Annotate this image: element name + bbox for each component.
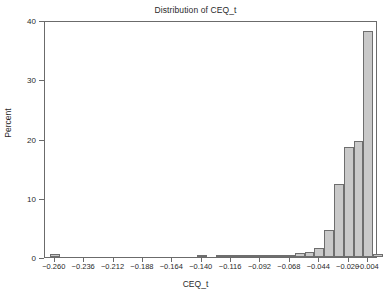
bars-container <box>45 22 376 257</box>
chart-title: Distribution of CEQ_t <box>0 5 391 15</box>
x-tick-label: −0.212 <box>101 262 124 271</box>
histogram-bar <box>275 255 285 257</box>
x-tick-label: −0.092 <box>248 262 271 271</box>
x-tick-label: −0.188 <box>130 262 153 271</box>
x-tick-label: −0.004 <box>356 262 379 271</box>
histogram-bar <box>305 252 315 257</box>
histogram-bar <box>314 248 324 257</box>
x-axis-label: CEQ_t <box>0 279 391 289</box>
x-tick-label: −0.044 <box>307 262 330 271</box>
histogram-bar <box>373 254 383 257</box>
histogram-bar <box>324 230 334 257</box>
histogram-bar <box>344 147 354 257</box>
y-tick-mark <box>39 258 44 259</box>
plot-area <box>44 21 377 258</box>
x-tick-label: −0.068 <box>277 262 300 271</box>
histogram-bar <box>226 255 236 257</box>
x-tick-label: −0.140 <box>189 262 212 271</box>
x-tick-label: −0.236 <box>72 262 95 271</box>
histogram-bar <box>285 255 295 257</box>
histogram-bar <box>265 255 275 257</box>
histogram-bar <box>216 255 226 257</box>
histogram-bar <box>197 255 207 257</box>
y-axis-label: Percent <box>3 88 13 158</box>
y-tick-label: 40 <box>8 17 36 26</box>
x-tick-label: −0.116 <box>219 262 242 271</box>
histogram-bar <box>50 254 60 257</box>
y-tick-label: 30 <box>8 76 36 85</box>
histogram-bar <box>236 255 246 257</box>
y-tick-label: 0 <box>8 254 36 263</box>
histogram-chart: Distribution of CEQ_t Percent 010203040 … <box>0 0 391 303</box>
histogram-bar <box>246 255 256 257</box>
histogram-bar <box>334 184 344 257</box>
histogram-bar <box>295 253 305 257</box>
x-tick-label: −0.260 <box>42 262 65 271</box>
histogram-bar <box>354 141 364 257</box>
x-tick-label: −0.164 <box>160 262 183 271</box>
y-tick-label: 10 <box>8 194 36 203</box>
y-tick-label: 20 <box>8 135 36 144</box>
histogram-bar <box>363 31 373 257</box>
histogram-bar <box>256 255 266 257</box>
